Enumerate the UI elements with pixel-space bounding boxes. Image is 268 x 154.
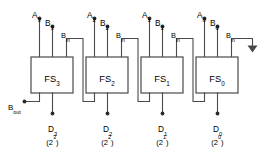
- label-fs1-sub: 1: [166, 80, 170, 87]
- label-bin3-sub: in: [66, 37, 70, 43]
- label-fs3-sub: 3: [56, 80, 60, 87]
- label-a3-sub: 3: [38, 17, 41, 23]
- terminal-dot-d0: [216, 112, 220, 116]
- label-bin3: Bin: [61, 24, 70, 43]
- terminal-dot-bout: [23, 100, 27, 104]
- label-bin2-sub: in: [121, 37, 125, 43]
- terminal-dot-d1: [161, 112, 165, 116]
- label-weight-d1: (21): [148, 131, 177, 149]
- down-arrow-icon: [248, 46, 258, 53]
- wire-borrow-out: [25, 93, 40, 102]
- label-b3: B3: [45, 12, 54, 31]
- label-b2: B2: [100, 12, 109, 31]
- label-fs0-sub: 0: [221, 80, 225, 87]
- label-fs0: FS0: [196, 68, 238, 87]
- label-b0-sub: 0: [216, 25, 219, 31]
- label-a1: A1: [142, 4, 151, 23]
- label-a0-sub: 0: [203, 17, 206, 23]
- label-a2-sub: 2: [93, 17, 96, 23]
- label-b2-sub: 2: [106, 25, 109, 31]
- terminal-dot-d3: [51, 112, 55, 116]
- label-bin1-sub: in: [176, 37, 180, 43]
- label-a2: A2: [87, 4, 96, 23]
- label-weight-d0-close: ): [221, 138, 224, 147]
- label-a0: A0: [197, 4, 206, 23]
- label-fs1: FS1: [141, 68, 183, 87]
- label-weight-d2: (22): [93, 131, 122, 149]
- circuit-diagram-canvas: A3 A2 A1 A0 B3 B2 B1 B0 Bin Bin Bin Bin …: [0, 0, 268, 154]
- label-fs2-sub: 2: [111, 80, 115, 87]
- label-weight-d3-close: ): [56, 138, 59, 147]
- label-bin0: Bin: [226, 24, 235, 43]
- label-b0: B0: [210, 12, 219, 31]
- label-weight-d1-close: ): [166, 138, 169, 147]
- label-bout: Bout: [8, 96, 21, 115]
- label-weight-d2-close: ): [111, 138, 114, 147]
- label-fs2: FS2: [86, 68, 128, 87]
- label-a3: A3: [32, 4, 41, 23]
- label-weight-d3: (23): [38, 131, 67, 149]
- label-b3-sub: 3: [51, 25, 54, 31]
- label-bin0-sub: in: [231, 37, 235, 43]
- terminal-dot-d2: [106, 112, 110, 116]
- label-b1: B1: [155, 12, 164, 31]
- initial-borrow-in-source: [232, 39, 258, 53]
- label-weight-d0: (20): [203, 131, 232, 149]
- label-bin1: Bin: [171, 24, 180, 43]
- label-fs3: FS3: [31, 68, 73, 87]
- label-a1-sub: 1: [148, 17, 151, 23]
- label-bout-sub: out: [13, 109, 21, 115]
- label-bin2: Bin: [116, 24, 125, 43]
- label-b1-sub: 1: [161, 25, 164, 31]
